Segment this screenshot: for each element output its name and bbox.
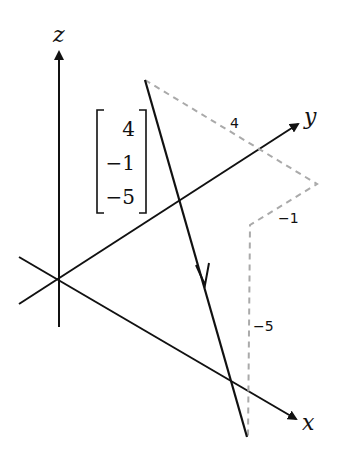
vector-diagram: z y x 4 −1 −5 4 −1 −5	[0, 0, 351, 451]
z-component-label: −5	[253, 318, 274, 334]
matrix-left-bracket	[97, 110, 104, 213]
x-component-label: 4	[230, 115, 239, 131]
matrix-entry-z: −5	[106, 185, 135, 209]
y-axis	[19, 124, 298, 304]
z-axis-label: z	[52, 22, 65, 47]
y-component-label: −1	[278, 210, 299, 226]
x-axis	[19, 257, 296, 419]
matrix-entry-x: 4	[122, 117, 135, 141]
matrix-right-bracket	[139, 110, 146, 213]
y-axis-label: y	[303, 104, 317, 129]
x-axis-label: x	[302, 410, 315, 435]
matrix-entry-y: −1	[106, 151, 135, 175]
